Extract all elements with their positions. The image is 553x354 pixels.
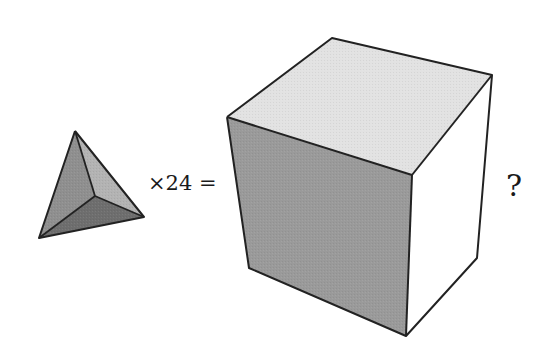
question-mark: ? bbox=[506, 168, 522, 203]
geometry-illustration bbox=[0, 0, 553, 354]
tetrahedron-icon bbox=[39, 131, 144, 238]
cube-icon bbox=[227, 38, 492, 336]
multiplication-equation: ×24 = bbox=[148, 171, 217, 195]
figure-canvas: ×24 = ? bbox=[0, 0, 553, 354]
